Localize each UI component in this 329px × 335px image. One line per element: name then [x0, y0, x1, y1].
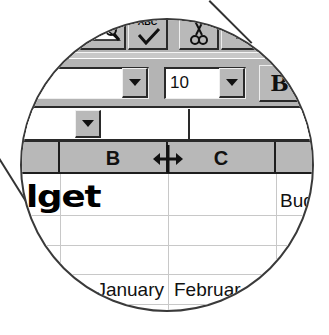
spelling-label: ABC	[138, 18, 158, 27]
copy-icon	[227, 20, 255, 44]
title-text: lget	[26, 178, 100, 214]
standard-toolbar: ABC	[20, 18, 314, 58]
chevron-down-icon	[82, 120, 94, 127]
row-divider	[20, 245, 314, 246]
cell-c4[interactable]: Februar	[174, 279, 241, 301]
spelling-button[interactable]: ABC	[128, 18, 168, 50]
bold-button[interactable]: B	[259, 65, 301, 102]
font-size-dropdown-button[interactable]	[219, 68, 245, 98]
font-size-value: 10	[166, 73, 189, 92]
row-divider	[20, 274, 314, 275]
copy-button[interactable]	[221, 18, 261, 50]
toolbar-divider	[20, 52, 314, 58]
column-header-a[interactable]	[20, 142, 60, 174]
spelling-icon	[135, 27, 161, 45]
cell-d1[interactable]: Bud	[280, 190, 314, 212]
column-header-d[interactable]	[276, 142, 314, 174]
column-header-c[interactable]: C	[168, 142, 276, 174]
chevron-down-icon	[226, 79, 238, 86]
col-divider	[276, 174, 277, 312]
cut-button[interactable]	[179, 18, 219, 50]
formula-input[interactable]	[190, 109, 314, 139]
print-preview-icon	[85, 20, 121, 44]
cell-b5[interactable]: 900	[60, 307, 158, 312]
font-name-dropdown-button[interactable]	[122, 68, 148, 98]
row-divider	[20, 215, 314, 216]
spreadsheet-window: ABC 10	[20, 18, 314, 312]
cell-c5[interactable]: 1	[168, 307, 222, 312]
formatting-toolbar: 10 B	[20, 59, 314, 108]
name-box-dropdown-button[interactable]	[75, 110, 101, 138]
formula-bar-buttons-area	[102, 109, 188, 139]
cell-title[interactable]: lget	[26, 178, 91, 214]
print-preview-button[interactable]	[80, 18, 126, 50]
formula-bar	[20, 109, 314, 142]
column-header-row: B C	[20, 142, 314, 174]
cell-b4[interactable]: January	[60, 279, 164, 301]
col-divider	[168, 174, 169, 312]
chevron-down-icon	[129, 79, 141, 86]
column-resize-cursor-icon	[152, 144, 184, 174]
row-divider	[20, 304, 314, 305]
magnifier-lens: ABC 10	[20, 18, 314, 312]
cut-icon	[188, 18, 210, 47]
bold-icon: B	[270, 70, 289, 96]
